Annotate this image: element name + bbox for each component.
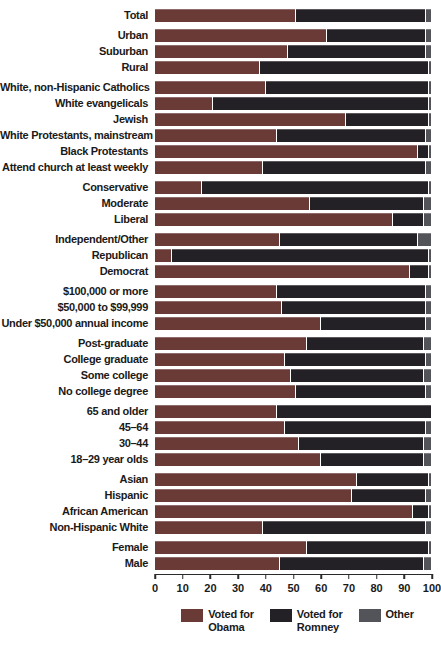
legend-swatch-obama: [181, 609, 203, 622]
bar-track: [155, 145, 432, 158]
other-segment: [426, 385, 431, 398]
category-label: Independent/Other: [0, 233, 155, 246]
bar-track: [155, 213, 432, 226]
bar-row: College graduate: [0, 353, 440, 366]
romney-segment: [285, 421, 425, 434]
legend: Voted forObamaVoted forRomneyOther: [155, 608, 440, 634]
romney-segment: [291, 369, 423, 382]
obama-segment: [155, 557, 279, 570]
x-axis-tick: [376, 574, 378, 579]
romney-segment: [282, 301, 425, 314]
bar-track: [155, 437, 432, 450]
x-axis-tick: [265, 574, 267, 579]
bar-row: No college degree: [0, 385, 440, 398]
other-segment: [426, 161, 431, 174]
bar-row: Independent/Other: [0, 233, 440, 246]
x-axis-tick: [404, 574, 406, 579]
category-label: Suburban: [0, 45, 155, 58]
x-axis-tick: [182, 574, 184, 579]
other-segment: [424, 557, 431, 570]
legend-item-obama: Voted forObama: [181, 608, 254, 634]
obama-segment: [155, 29, 326, 42]
bar-track: [155, 161, 432, 174]
obama-segment: [155, 437, 298, 450]
romney-segment: [327, 29, 426, 42]
obama-segment: [155, 521, 262, 534]
category-label: $50,000 to $99,999: [0, 301, 155, 314]
bar-track: [155, 45, 432, 58]
bar-group-race-ethnicity: AsianHispanicAfrican AmericanNon-Hispani…: [0, 473, 440, 534]
other-segment: [426, 421, 431, 434]
other-segment: [424, 437, 431, 450]
bar-track: [155, 301, 432, 314]
other-segment: [429, 113, 431, 126]
bar-track: [155, 385, 432, 398]
other-segment: [424, 197, 431, 210]
category-label: Total: [0, 9, 155, 22]
legend-item-romney: Voted forRomney: [270, 608, 343, 634]
category-label: Post-graduate: [0, 337, 155, 350]
category-label: No college degree: [0, 385, 155, 398]
category-label: Under $50,000 annual income: [0, 317, 155, 330]
obama-segment: [155, 233, 279, 246]
other-segment: [418, 233, 431, 246]
obama-segment: [155, 421, 284, 434]
bar-track: [155, 265, 432, 278]
x-axis-tick: [431, 574, 433, 579]
obama-segment: [155, 265, 409, 278]
x-axis-tick-label: 10: [177, 582, 189, 594]
obama-segment: [155, 337, 306, 350]
x-axis-tick: [320, 574, 322, 579]
obama-segment: [155, 301, 281, 314]
romney-segment: [277, 285, 426, 298]
romney-segment: [288, 45, 426, 58]
bar-group-age: 65 and older45–6430–4418–29 year olds: [0, 405, 440, 466]
other-segment: [426, 285, 431, 298]
obama-segment: [155, 473, 356, 486]
bar-row: $100,000 or more: [0, 285, 440, 298]
category-label: College graduate: [0, 353, 155, 366]
category-label: Liberal: [0, 213, 155, 226]
bar-row: Some college: [0, 369, 440, 382]
category-label: Rural: [0, 61, 155, 74]
bar-track: [155, 353, 432, 366]
x-axis-tick-label: 60: [315, 582, 327, 594]
bar-group-party: Independent/OtherRepublicanDemocrat: [0, 233, 440, 278]
category-label: 18–29 year olds: [0, 453, 155, 466]
bar-row: Rural: [0, 61, 440, 74]
bar-track: [155, 181, 432, 194]
obama-segment: [155, 353, 284, 366]
category-label: 45–64: [0, 421, 155, 434]
category-label: Conservative: [0, 181, 155, 194]
bar-row: Moderate: [0, 197, 440, 210]
romney-segment: [352, 489, 426, 502]
bar-row: 65 and older: [0, 405, 440, 418]
obama-segment: [155, 213, 392, 226]
bar-track: [155, 557, 432, 570]
bar-group-income: $100,000 or more$50,000 to $99,999Under …: [0, 285, 440, 330]
category-label: Jewish: [0, 113, 155, 126]
bar-row: 18–29 year olds: [0, 453, 440, 466]
bar-row: Republican: [0, 249, 440, 262]
romney-segment: [172, 249, 429, 262]
bar-track: [155, 81, 432, 94]
category-label: White, non-Hispanic Catholics: [0, 81, 155, 94]
obama-segment: [155, 61, 259, 74]
other-segment: [429, 473, 431, 486]
obama-segment: [155, 129, 276, 142]
bar-track: [155, 541, 432, 554]
other-segment: [424, 369, 431, 382]
other-segment: [426, 29, 431, 42]
other-segment: [424, 453, 431, 466]
bar-track: [155, 129, 432, 142]
bar-row: Liberal: [0, 213, 440, 226]
other-segment: [424, 213, 431, 226]
category-label: White Protestants, mainstream: [0, 129, 155, 142]
romney-segment: [299, 437, 423, 450]
category-label: White evangelicals: [0, 97, 155, 110]
obama-segment: [155, 489, 351, 502]
other-segment: [426, 301, 431, 314]
bar-row: Democrat: [0, 265, 440, 278]
bar-group-total: Total: [0, 9, 440, 22]
